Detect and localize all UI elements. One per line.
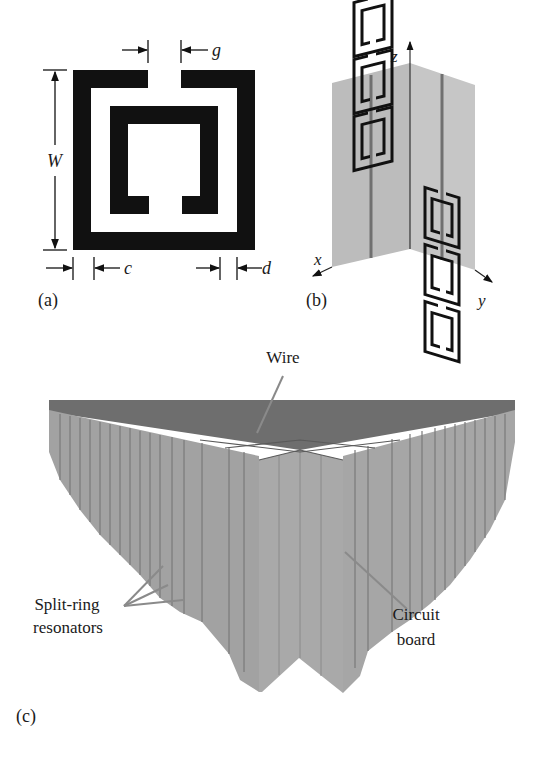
front-circuit-board <box>259 450 343 693</box>
spacing-dimension <box>196 257 262 280</box>
y-axis <box>475 270 492 282</box>
gap-dimension <box>122 40 208 63</box>
srr-label-line1: Split-ring <box>34 595 100 614</box>
outer-ring <box>73 70 255 250</box>
line-width-label: c <box>124 258 132 278</box>
panel-a: g W c d (a) <box>38 40 272 311</box>
spacing-label: d <box>262 258 272 278</box>
srr-label-line2: resonators <box>33 618 103 637</box>
panel-a-label: (a) <box>38 290 58 311</box>
array-right-side <box>343 410 515 693</box>
panel-c-label: (c) <box>16 706 36 727</box>
srr-metamaterial-figure: g W c d (a) <box>0 0 546 758</box>
gap-label: g <box>212 40 221 60</box>
circuit-board-label-line2: board <box>397 630 436 649</box>
y-axis-label: y <box>476 291 486 310</box>
line-width-dimension <box>46 257 120 280</box>
panel-b: z x y <box>306 0 492 362</box>
x-axis-label: x <box>313 250 322 269</box>
width-label: W <box>47 151 64 171</box>
inner-ring <box>110 106 218 214</box>
panel-c: Wire Split-ring resonators Circuit board… <box>16 348 515 727</box>
circuit-board-label-line1: Circuit <box>392 605 439 624</box>
wire-label: Wire <box>266 348 299 367</box>
panel-b-label: (b) <box>306 290 327 311</box>
